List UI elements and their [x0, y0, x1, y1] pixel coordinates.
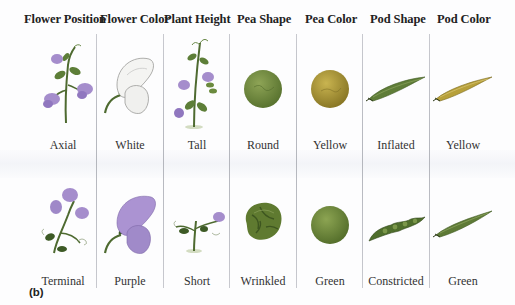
green-pod-icon [430, 171, 496, 266]
cell-flower-position-terminal: Terminal [30, 171, 96, 291]
short-plant-icon [164, 171, 230, 266]
cell-pod-color-yellow: Yellow [430, 35, 496, 155]
yellow-pea-icon [297, 35, 363, 130]
trait-label-green-pod: Green [424, 274, 502, 289]
axial-flower-plant-icon [30, 35, 96, 130]
round-pea-icon [230, 35, 296, 130]
cell-pea-shape-wrinkled: Wrinkled [230, 171, 296, 291]
header-pod-shape: Pod Shape [370, 12, 426, 27]
trait-label-yellow-pod: Yellow [424, 138, 502, 153]
cell-pod-color-green: Green [430, 171, 496, 291]
cell-pod-shape-inflated: Inflated [363, 35, 429, 155]
cell-plant-height-short: Short [164, 171, 230, 291]
constricted-pod-icon [363, 171, 429, 266]
header-pea-color: Pea Color [305, 12, 357, 27]
cell-pea-color-yellow: Yellow [297, 35, 363, 155]
green-pea-icon [297, 171, 363, 266]
header-pod-color: Pod Color [437, 12, 491, 27]
cell-flower-color-purple: Purple [97, 171, 163, 291]
cell-plant-height-tall: Tall [164, 35, 230, 155]
header-flower-position: Flower Position [24, 12, 106, 27]
cell-flower-position-axial: Axial [30, 35, 96, 155]
header-plant-height: Plant Height [164, 12, 231, 27]
header-pea-shape: Pea Shape [237, 12, 291, 27]
inflated-pod-icon [363, 35, 429, 130]
cell-pea-color-green: Green [297, 171, 363, 291]
panel-label: (b) [29, 286, 44, 298]
cell-pod-shape-constricted: Constricted [363, 171, 429, 291]
yellow-pod-icon [430, 35, 496, 130]
terminal-flower-plant-icon [30, 171, 96, 266]
purple-flower-icon [97, 171, 163, 266]
wrinkled-pea-icon [230, 171, 296, 266]
cell-pea-shape-round: Round [230, 35, 296, 155]
trait-header-row: Flower Position Flower Color Plant Heigh… [0, 12, 515, 32]
header-flower-color: Flower Color [100, 12, 170, 27]
tall-plant-icon [164, 35, 230, 130]
white-flower-icon [97, 35, 163, 130]
cell-flower-color-white: White [97, 35, 163, 155]
